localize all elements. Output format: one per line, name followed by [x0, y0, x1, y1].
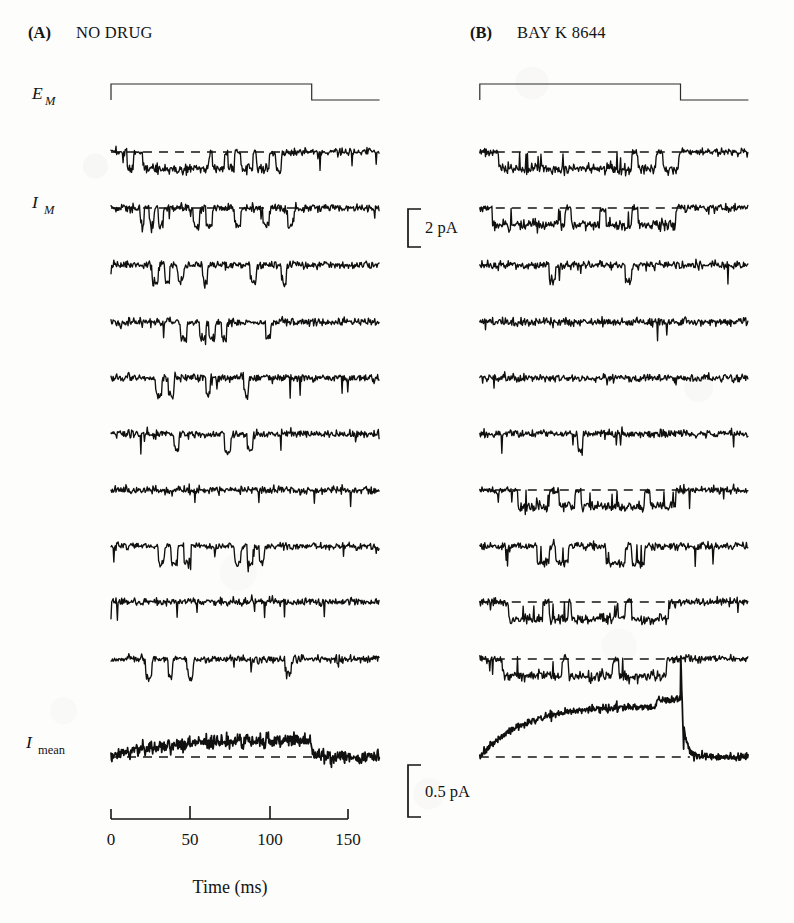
- figure-root: (A) NO DRUG (B) BAY K 8644 E M I M I mea…: [0, 0, 794, 923]
- sweep-trace-a-10: [111, 654, 379, 682]
- sweep-trace-a-2: [111, 202, 379, 232]
- panel-b-title: BAY K 8644: [517, 23, 606, 42]
- sweep-trace-a-5: [111, 372, 379, 399]
- recording-plot: (A) NO DRUG (B) BAY K 8644 E M I M I mea…: [0, 0, 794, 923]
- mean-current-trace-a: [111, 732, 379, 767]
- sweeps-panel-a: [111, 146, 379, 681]
- sweep-trace-b-6: [480, 427, 748, 455]
- em-subscript: M: [44, 94, 56, 108]
- imean-symbol: I: [25, 732, 33, 752]
- em-axis-label: E M: [31, 83, 56, 108]
- time-tick-0: 0: [107, 830, 116, 849]
- sweep-trace-b-5: [480, 372, 748, 388]
- current-scale-label: 2 pA: [425, 218, 458, 237]
- generated-traces-layer: [111, 84, 748, 767]
- current-scale-bracket: [408, 209, 421, 247]
- mean-trace-panel-b: [480, 656, 748, 761]
- panel-b-label: (B): [470, 23, 492, 42]
- sweep-trace-a-3: [111, 260, 379, 288]
- sweep-trace-a-6: [111, 427, 379, 454]
- im-axis-label: I M: [31, 192, 55, 217]
- sweeps-panel-b: [480, 148, 748, 684]
- sweep-trace-a-8: [111, 542, 379, 572]
- mean-current-scale-bracket: [408, 765, 421, 817]
- sweep-trace-a-9: [111, 595, 379, 620]
- time-axis-title: Time (ms): [193, 877, 268, 898]
- time-tick-100: 100: [257, 830, 283, 849]
- imean-axis-label: I mean: [25, 732, 66, 757]
- time-axis: 0 50 100 150 Time (ms): [107, 806, 361, 898]
- em-symbol: E: [31, 83, 43, 103]
- sweep-trace-a-7: [111, 484, 379, 507]
- sweep-trace-b-4: [480, 317, 748, 341]
- imean-subscript: mean: [38, 743, 66, 757]
- current-scale-bar: 2 pA: [408, 209, 458, 247]
- sweep-trace-b-7: [480, 484, 748, 514]
- mean-trace-panel-a: [111, 732, 379, 767]
- sweep-trace-b-8: [480, 539, 748, 568]
- em-voltage-step-panel-b: [480, 84, 749, 100]
- sweep-trace-a-1: [111, 146, 379, 175]
- mean-current-scale-label: 0.5 pA: [425, 782, 470, 801]
- sweep-trace-b-9: [480, 597, 748, 625]
- im-subscript: M: [43, 203, 55, 217]
- panel-a-title: NO DRUG: [76, 23, 153, 42]
- sweep-trace-a-4: [111, 317, 379, 345]
- sweep-trace-b-3: [480, 259, 748, 285]
- em-voltage-step-panel-a: [111, 84, 380, 100]
- time-tick-150: 150: [335, 830, 361, 849]
- im-symbol: I: [31, 192, 39, 212]
- time-tick-50: 50: [182, 830, 199, 849]
- time-axis-line: [111, 806, 348, 819]
- mean-current-scale-bar: 0.5 pA: [408, 765, 470, 817]
- panel-a-label: (A): [28, 23, 51, 42]
- mean-current-trace-b: [480, 656, 748, 761]
